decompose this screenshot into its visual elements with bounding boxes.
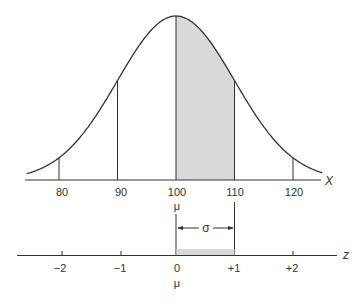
sigma-label: σ (202, 221, 210, 235)
mu-label-lower: μ (174, 277, 180, 289)
x-tick-90: 90 (115, 186, 127, 198)
x-tick-120: 120 (285, 186, 303, 198)
z-tick-label-0: 0 (174, 262, 180, 274)
x-tick-110: 110 (226, 186, 244, 198)
z-tick-label-minus2: −2 (54, 262, 67, 274)
z-axis-label: z (342, 248, 349, 262)
x-tick-100: 100 (168, 186, 186, 198)
x-tick-80: 80 (56, 186, 68, 198)
arrowhead-right-icon (228, 226, 234, 230)
z-tick-label-minus1: −1 (114, 262, 127, 274)
arrowhead-left-icon (177, 226, 183, 230)
z-tick-label-plus1: +1 (228, 262, 241, 274)
z-tick-label-plus2: +2 (286, 262, 299, 274)
x-axis-label: X (324, 174, 334, 188)
mu-label-upper: μ (174, 200, 180, 212)
normal-curve (27, 16, 323, 174)
normal-distribution-diagram: X 80 90 100 110 120 μ σ z −2 −1 0 +1 +2 … (0, 0, 363, 307)
vertical-markers (59, 16, 293, 180)
shaded-z-band (177, 249, 235, 255)
shaded-area (176, 16, 235, 180)
